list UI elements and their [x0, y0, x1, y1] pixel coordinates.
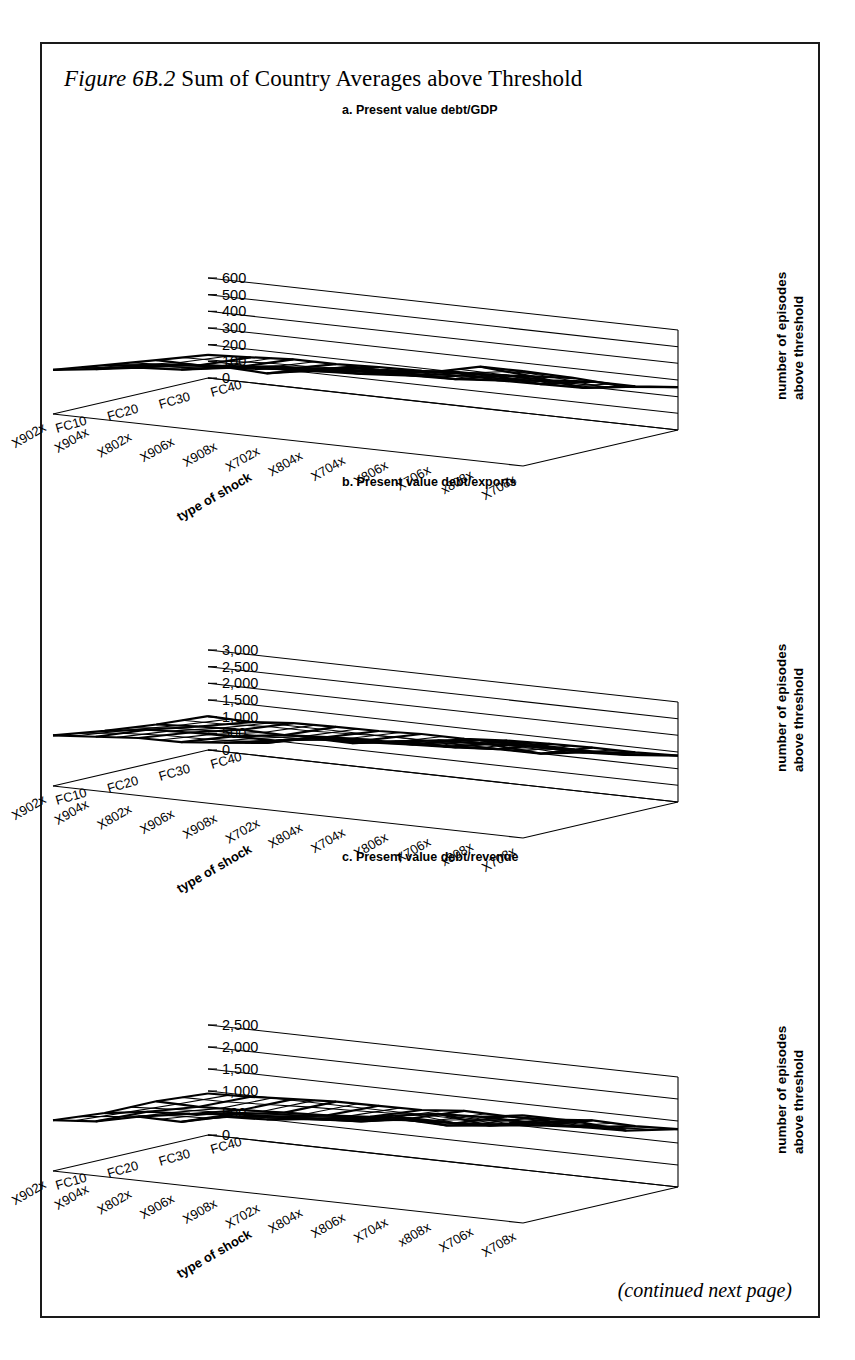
depth-category-label: X902x — [9, 1176, 49, 1208]
panel-present-value-debt-exports: 05001,0001,5002,0002,5003,000number of e… — [42, 474, 822, 874]
y-tick-label: 2,000 — [222, 1039, 258, 1055]
chart-c: 05001,0001,5002,0002,500number of episod… — [42, 849, 822, 1259]
surface-wireframe — [53, 355, 678, 388]
figure-footer: (continued next page) — [618, 1279, 792, 1302]
y-tick-label: 500 — [222, 725, 246, 741]
y-axis-ticks: 05001,0001,5002,0002,500 — [208, 1017, 258, 1143]
depth-category-label: X906x — [137, 434, 177, 466]
y-tick-label: 200 — [222, 337, 246, 353]
y-axis-label: number of episodesabove threshold — [774, 272, 806, 400]
y-tick-label: 2,000 — [222, 675, 258, 691]
x-category-label: FC20 — [105, 401, 140, 424]
depth-category-label: X908x — [180, 810, 220, 842]
y-tick-label: 400 — [222, 303, 246, 319]
svg-text:above threshold: above threshold — [791, 296, 806, 400]
y-tick-label: 300 — [222, 320, 246, 336]
depth-category-label: X902x — [9, 419, 49, 451]
surface-wireframe — [53, 716, 678, 755]
x-category-label: FC40 — [209, 1134, 244, 1157]
depth-category-label: X704x — [351, 1214, 391, 1246]
depth-category-label: X908x — [180, 1195, 220, 1227]
y-tick-label: 2,500 — [222, 659, 258, 675]
figure-title: Figure 6B.2 Sum of Country Averages abov… — [64, 66, 582, 92]
depth-category-label: X802x — [95, 1186, 135, 1218]
figure-title-text: Sum of Country Averages above Threshold — [175, 66, 582, 91]
figure-number: Figure 6B.2 — [64, 66, 175, 91]
depth-category-label: X906x — [137, 806, 177, 838]
depth-category-label: X802x — [95, 429, 135, 461]
x-category-label: FC40 — [209, 749, 244, 772]
chart-a: 0100200300400500600number of episodesabo… — [42, 102, 822, 502]
y-tick-label: 1,500 — [222, 692, 258, 708]
figure-frame: Figure 6B.2 Sum of Country Averages abov… — [40, 42, 820, 1318]
x-category-label: FC20 — [105, 1158, 140, 1181]
svg-text:number of episodes: number of episodes — [774, 644, 789, 772]
y-tick-label: 1,000 — [222, 1083, 258, 1099]
depth-category-label: X806x — [308, 1209, 348, 1241]
y-tick-label: 1,000 — [222, 709, 258, 725]
depth-category-label: X906x — [137, 1191, 177, 1223]
panel-present-value-debt-gdp: 0100200300400500600number of episodesabo… — [42, 102, 822, 502]
gridlines — [208, 278, 678, 430]
y-tick-label: 1,500 — [222, 1061, 258, 1077]
depth-axis-categories: X708xX706xx808xX704xX806xX804xX702xX908x… — [9, 1176, 519, 1260]
depth-axis-title: type of shock — [174, 1226, 255, 1281]
depth-category-label: X708x — [479, 1228, 519, 1260]
x-category-label: FC30 — [157, 761, 192, 784]
panel-present-value-debt-revenue: 05001,0001,5002,0002,500number of episod… — [42, 849, 822, 1259]
depth-category-label: X902x — [9, 791, 49, 823]
surface-wireframe — [53, 1093, 678, 1130]
panel-title: a. Present value debt/GDP — [342, 103, 498, 117]
depth-category-label: X804x — [265, 820, 305, 852]
svg-text:number of episodes: number of episodes — [774, 1026, 789, 1154]
y-tick-label: 3,000 — [222, 642, 258, 658]
depth-category-label: X702x — [223, 1200, 263, 1232]
y-tick-label: 500 — [222, 1105, 246, 1121]
svg-text:above threshold: above threshold — [791, 668, 806, 772]
depth-category-label: X908x — [180, 438, 220, 470]
depth-category-label: X804x — [265, 1205, 305, 1237]
panel-title: c. Present value debt/revenue — [342, 850, 519, 864]
depth-category-label: X706x — [436, 1224, 476, 1256]
gridlines — [208, 1025, 678, 1187]
y-tick-label: 100 — [222, 353, 246, 369]
svg-text:above threshold: above threshold — [791, 1050, 806, 1154]
y-axis-label: number of episodesabove threshold — [774, 644, 806, 772]
panel-title: b. Present value debt/exports — [342, 475, 516, 489]
chart-b: 05001,0001,5002,0002,5003,000number of e… — [42, 474, 822, 874]
y-tick-label: 2,500 — [222, 1017, 258, 1033]
y-axis-label: number of episodesabove threshold — [774, 1026, 806, 1154]
depth-category-label: x808x — [395, 1219, 433, 1250]
y-tick-label: 500 — [222, 287, 246, 303]
svg-text:number of episodes: number of episodes — [774, 272, 789, 400]
x-category-label: FC30 — [157, 389, 192, 412]
depth-category-label: X802x — [95, 801, 135, 833]
x-category-label: FC40 — [209, 377, 244, 400]
x-category-label: FC30 — [157, 1146, 192, 1169]
x-category-label: FC20 — [105, 773, 140, 796]
depth-category-label: X702x — [223, 443, 263, 475]
y-tick-label: 600 — [222, 270, 246, 286]
depth-category-label: X702x — [223, 815, 263, 847]
